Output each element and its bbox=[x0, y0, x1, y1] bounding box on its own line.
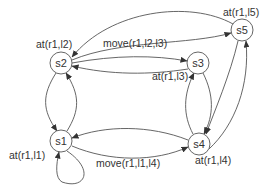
state-label-s4: at(r1,l4) bbox=[195, 154, 231, 166]
state-label-s1: at(r1,l1) bbox=[9, 149, 45, 161]
svg-text:s3: s3 bbox=[192, 57, 204, 69]
edge-label-move-l2-l3: move(r1,l2,l3) bbox=[103, 37, 167, 49]
state-graph: s1 s2 s3 s4 s5 at(r1,l2) at(r1,l5) at(r1… bbox=[0, 0, 265, 187]
svg-text:s5: s5 bbox=[236, 24, 248, 36]
edge-s4-s1 bbox=[72, 128, 188, 140]
node-s3: s3 bbox=[187, 52, 209, 74]
node-s2: s2 bbox=[50, 52, 72, 74]
edge-s5-s2 bbox=[72, 11, 233, 57]
state-label-s5: at(r1,l5) bbox=[223, 6, 259, 18]
edge-s3-s4 bbox=[203, 73, 211, 134]
state-label-s2: at(r1,l2) bbox=[36, 38, 72, 50]
state-label-s3: at(r1,l3) bbox=[152, 70, 188, 82]
svg-text:s1: s1 bbox=[55, 135, 67, 147]
edge-s5-s4 bbox=[206, 41, 238, 134]
node-s5: s5 bbox=[231, 19, 253, 41]
node-s4: s4 bbox=[188, 133, 210, 155]
edge-s2-s3 bbox=[72, 57, 187, 63]
svg-text:s4: s4 bbox=[193, 138, 205, 150]
edge-s4-s3 bbox=[186, 73, 194, 134]
edge-s2-s1 bbox=[46, 73, 57, 131]
edge-label-move-l1-l4: move(r1,l1,l4) bbox=[96, 157, 160, 169]
edge-s1-s1 bbox=[57, 151, 84, 184]
edge-s4-s5 bbox=[209, 41, 247, 149]
edge-s1-s2 bbox=[66, 73, 77, 131]
svg-text:s2: s2 bbox=[55, 57, 67, 69]
node-s1: s1 bbox=[50, 130, 72, 152]
